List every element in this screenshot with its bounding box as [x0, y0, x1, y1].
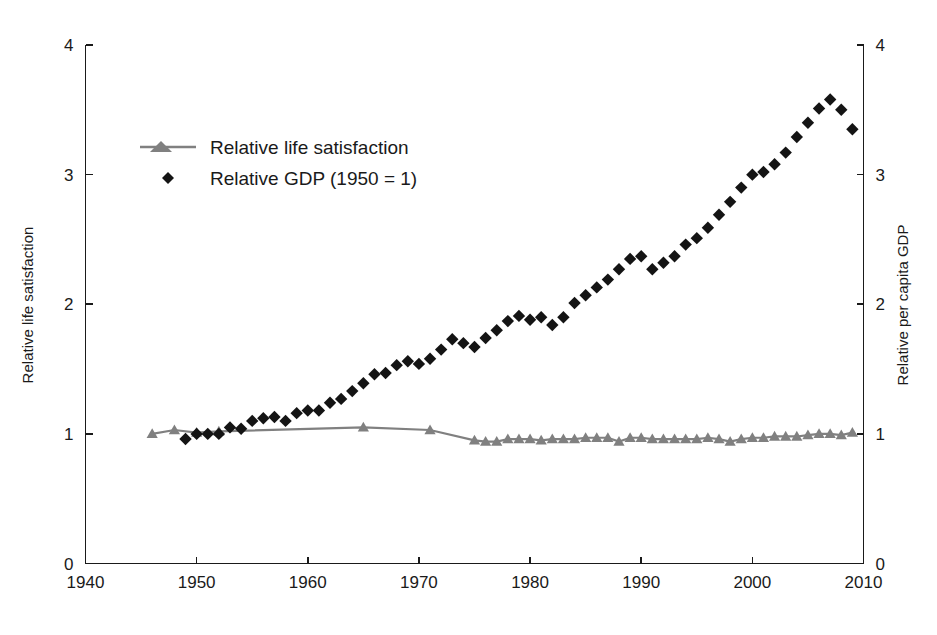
chart-container: 19401950196019701980199020002010 01234 0…	[0, 0, 937, 635]
y-tick-label-left: 2	[64, 295, 73, 314]
x-tick-label: 1960	[289, 573, 327, 592]
y-tick-label-left: 1	[64, 425, 73, 444]
x-tick-label: 1950	[178, 573, 216, 592]
legend-label-gdp: Relative GDP (1950 = 1)	[210, 168, 417, 189]
left-axis-title: Relative life satisfaction	[19, 227, 36, 384]
y-tick-label-right: 1	[876, 425, 885, 444]
relative-life-satisfaction-gdp-chart: 19401950196019701980199020002010 01234 0…	[0, 0, 937, 635]
right-axis-title: Relative per capita GDP	[894, 225, 911, 386]
y-tick-label-right: 2	[876, 295, 885, 314]
x-tick-label: 1940	[67, 573, 105, 592]
y-tick-label-right: 3	[876, 166, 885, 185]
y-tick-label-left: 3	[64, 166, 73, 185]
x-tick-label: 1990	[622, 573, 660, 592]
x-tick-label: 1970	[400, 573, 438, 592]
y-tick-label-right: 0	[876, 555, 885, 574]
y-tick-label-left: 4	[64, 36, 73, 55]
y-tick-label-right: 4	[876, 36, 885, 55]
x-tick-label: 2000	[733, 573, 771, 592]
x-tick-label: 1980	[511, 573, 549, 592]
x-tick-label: 2010	[845, 573, 883, 592]
legend-label-life-satisfaction: Relative life satisfaction	[210, 137, 409, 158]
chart-background	[0, 0, 937, 635]
y-tick-label-left: 0	[64, 555, 73, 574]
